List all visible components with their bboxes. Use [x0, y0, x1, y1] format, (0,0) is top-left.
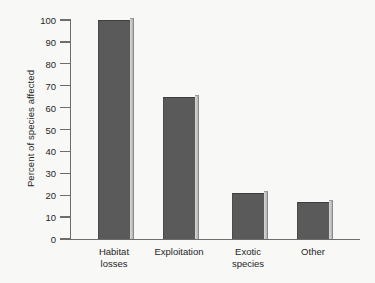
- bar-3d-edge: [264, 191, 268, 239]
- y-tick-label: 40: [12, 146, 56, 157]
- y-tick-mark: [60, 151, 70, 152]
- x-axis-label: Other: [263, 246, 363, 258]
- y-tick-mark: [60, 195, 70, 196]
- y-tick-label: 90: [12, 36, 56, 47]
- y-tick-mark: [60, 216, 70, 217]
- y-tick-mark: [60, 41, 70, 42]
- y-tick-label: 0: [12, 234, 56, 245]
- y-tick-mark: [60, 173, 70, 174]
- y-tick-mark: [60, 238, 70, 239]
- bar-chart: Percent of species affected 100908070605…: [0, 0, 375, 283]
- y-tick-mark: [60, 129, 70, 130]
- y-tick-label: 70: [12, 80, 56, 91]
- plot-area: [71, 20, 360, 239]
- y-tick-label: 30: [12, 168, 56, 179]
- bar-3d-edge: [329, 200, 333, 239]
- bar-3d-edge: [130, 18, 134, 239]
- y-tick-label: 10: [12, 212, 56, 223]
- y-tick-label: 60: [12, 102, 56, 113]
- bar: [232, 193, 264, 239]
- y-tick-mark: [60, 63, 70, 64]
- bar: [98, 20, 130, 239]
- y-tick-mark: [60, 19, 70, 20]
- y-tick-label: 80: [12, 58, 56, 69]
- y-tick-label: 100: [12, 15, 56, 26]
- y-tick-label: 50: [12, 124, 56, 135]
- bar: [163, 97, 195, 239]
- bar: [297, 202, 329, 239]
- y-tick-mark: [60, 85, 70, 86]
- y-tick-label: 20: [12, 190, 56, 201]
- y-tick-mark: [60, 107, 70, 108]
- bar-3d-edge: [195, 95, 199, 239]
